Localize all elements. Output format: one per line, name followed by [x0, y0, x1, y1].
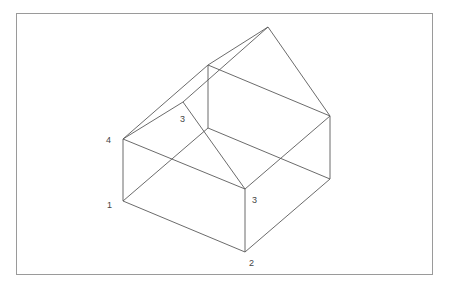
- label-3-roof: 3: [180, 114, 185, 124]
- label-2: 2: [249, 258, 254, 268]
- roof-valley-right: [183, 27, 268, 102]
- inner-diagonal-left: [123, 128, 208, 201]
- label-4: 4: [106, 135, 111, 145]
- roof-valley-left: [123, 102, 183, 139]
- label-3-front: 3: [252, 195, 257, 205]
- roof-ridge-top: [208, 27, 268, 65]
- roof-ridge-edge: [123, 65, 208, 139]
- label-1: 1: [107, 200, 112, 210]
- house-wireframe: 4 1 2 3 3: [0, 0, 452, 290]
- inner-diagonal-right: [208, 128, 330, 179]
- top-front-right: [245, 116, 330, 189]
- base-front-left: [123, 201, 245, 252]
- base-front-right: [245, 179, 330, 252]
